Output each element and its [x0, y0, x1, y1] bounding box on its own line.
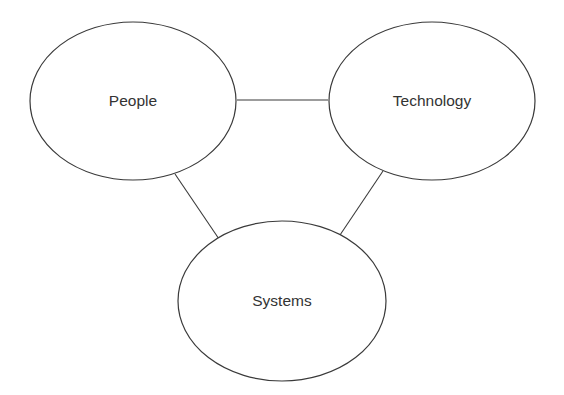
node-technology: Technology — [329, 22, 535, 180]
node-systems: Systems — [178, 221, 386, 381]
edge-technology-systems — [340, 171, 383, 235]
edge-people-systems — [175, 174, 219, 239]
systems-label: Systems — [252, 292, 312, 309]
technology-label: Technology — [393, 92, 472, 109]
people-label: People — [109, 92, 157, 109]
diagram-canvas: People Technology Systems — [0, 0, 564, 395]
node-people: People — [30, 22, 236, 180]
